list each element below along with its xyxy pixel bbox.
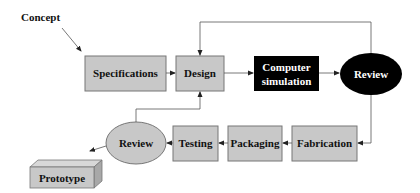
- design-box: Design: [176, 56, 224, 91]
- computer-simulation-box: Computer simulation: [254, 56, 319, 91]
- specifications-box: Specifications: [85, 56, 166, 91]
- concept-arrow: [62, 28, 81, 51]
- product-development-flow-diagram: Concept Specifications Design Computer s…: [0, 0, 420, 193]
- arrow-review-to-fabrication: [358, 95, 371, 143]
- design-label: Design: [184, 67, 216, 79]
- review-top-ellipse: Review: [340, 53, 402, 95]
- prototype-box: Prototype: [30, 160, 102, 188]
- fabrication-box: Fabrication: [292, 126, 357, 161]
- computer-simulation-label-2: simulation: [262, 75, 312, 87]
- review-bottom-label: Review: [119, 137, 153, 149]
- review-bottom-ellipse: Review: [106, 122, 166, 164]
- fabrication-label: Fabrication: [297, 137, 352, 149]
- concept-label: Concept: [21, 11, 60, 23]
- review-top-label: Review: [354, 68, 388, 80]
- computer-simulation-label-1: Computer: [262, 61, 310, 73]
- prototype-label: Prototype: [39, 172, 85, 184]
- arrow-review-to-prototype: [90, 146, 106, 151]
- testing-label: Testing: [179, 137, 213, 149]
- packaging-label: Packaging: [231, 137, 280, 149]
- arrow-review-to-design-feedback: [200, 22, 371, 55]
- packaging-box: Packaging: [228, 126, 282, 161]
- specifications-label: Specifications: [93, 67, 158, 79]
- arrow-review-to-design-bottom: [136, 92, 200, 122]
- testing-box: Testing: [173, 126, 218, 161]
